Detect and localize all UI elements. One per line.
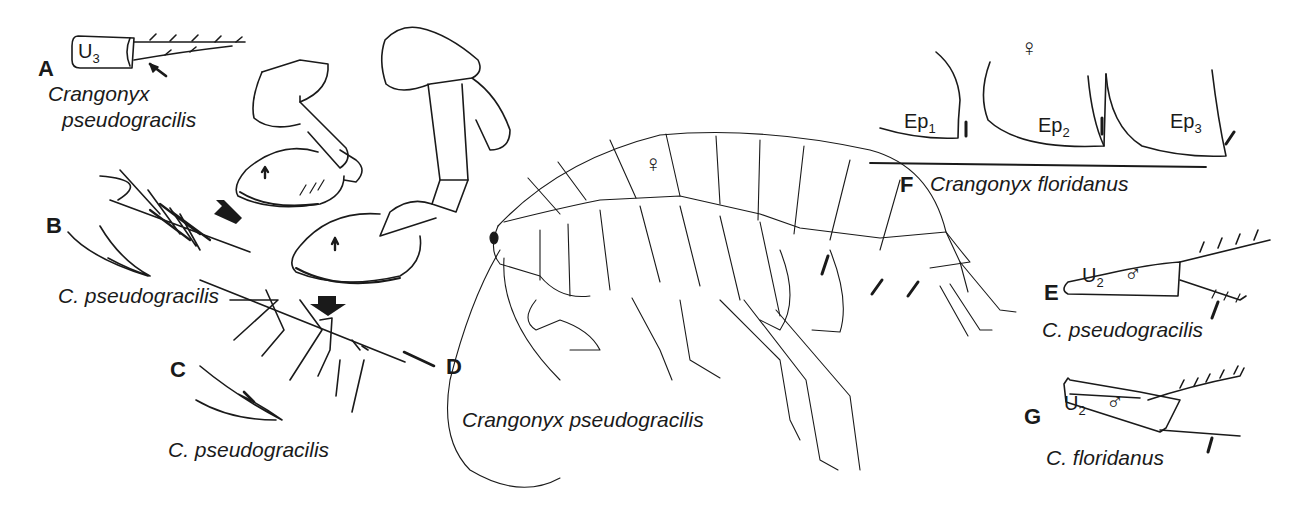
panel-label-b: B <box>46 213 62 239</box>
epimeron-text: Ep <box>904 110 928 132</box>
female-symbol-f: ♀ <box>1020 34 1038 62</box>
epimeron-subscript: 1 <box>928 121 935 136</box>
pointer-arrow-to-b <box>214 200 242 224</box>
structure-text: U <box>1082 264 1096 286</box>
panel-label-d: D <box>446 354 462 380</box>
epimeron-label-3: Ep3 <box>1170 110 1202 136</box>
species-caption-b: C. pseudogracilis <box>58 284 219 308</box>
structure-text: U <box>1064 392 1078 414</box>
gnathopod-2-drawing <box>292 27 510 283</box>
epimeron-subscript: 3 <box>1194 121 1201 136</box>
structure-subscript: 3 <box>92 51 99 66</box>
epimeron-text: Ep <box>1038 114 1062 136</box>
panel-label-g: G <box>1024 404 1041 430</box>
species-caption-d: Crangonyx pseudogracilis <box>462 408 704 432</box>
species-caption-a-line2: pseudogracilis <box>62 108 196 132</box>
gnathopod-1-drawing <box>236 60 362 207</box>
epimeron-arrow-1 <box>822 256 828 274</box>
structure-label-a: U3 <box>78 40 100 66</box>
antenna-arrow <box>404 352 434 366</box>
species-caption-a-line1: Crangonyx <box>48 82 150 106</box>
palm-spines-drawing-c <box>196 280 405 420</box>
panel-label-e: E <box>1044 280 1059 306</box>
species-caption-f: Crangonyx floridanus <box>930 172 1128 196</box>
panel-label-c: C <box>170 357 186 383</box>
uropod-2-drawing-g <box>1064 366 1244 452</box>
species-caption-g: C. floridanus <box>1046 446 1164 470</box>
palm-spines-drawing-b <box>68 170 250 276</box>
epimeron-arrow-3 <box>908 282 918 296</box>
pointer-arrow-to-c <box>310 296 346 316</box>
structure-text: U <box>78 40 92 62</box>
epimeron-subscript: 2 <box>1062 125 1069 140</box>
panel-label-a: A <box>38 56 54 82</box>
epimeron-arrow-2 <box>872 280 882 294</box>
structure-label-e: U2 <box>1082 264 1104 290</box>
female-symbol-d: ♀ <box>644 150 662 178</box>
structure-subscript: 2 <box>1078 403 1085 418</box>
epimeron-label-2: Ep2 <box>1038 114 1070 140</box>
structure-subscript: 2 <box>1096 275 1103 290</box>
epimeron-label-1: Ep1 <box>904 110 936 136</box>
structure-label-g: U2 <box>1064 392 1086 418</box>
panel-label-f: F <box>900 172 913 198</box>
male-symbol-g: ♂ <box>1106 388 1124 416</box>
species-caption-e: C. pseudogracilis <box>1042 318 1203 342</box>
male-symbol-e: ♂ <box>1124 260 1142 288</box>
epimeron-text: Ep <box>1170 110 1194 132</box>
species-caption-c: C. pseudogracilis <box>168 438 329 462</box>
